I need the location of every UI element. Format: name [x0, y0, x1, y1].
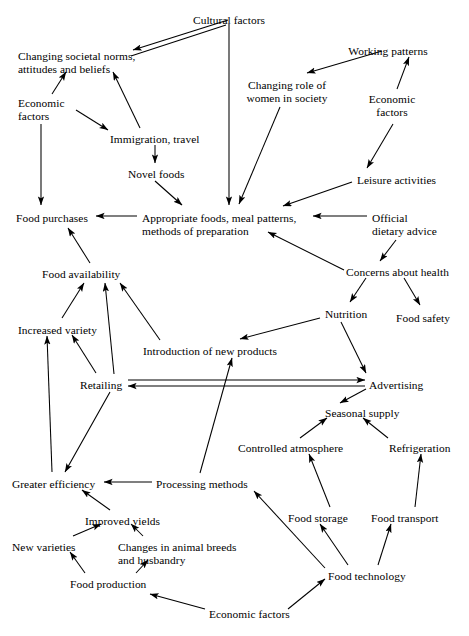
node-food_availability[interactable]: Food availability [42, 268, 120, 281]
node-greater_efficiency[interactable]: Greater efficiency [12, 478, 95, 491]
node-advertising[interactable]: Advertising [369, 379, 423, 392]
node-processing_methods[interactable]: Processing methods [156, 478, 248, 491]
node-cultural_factors[interactable]: Cultural factors [193, 14, 265, 27]
node-improved_yields[interactable]: Improved yields [85, 515, 160, 528]
node-economic_factors_right[interactable]: Economic factors [369, 93, 416, 118]
node-nutrition[interactable]: Nutrition [325, 308, 367, 321]
concept-map-diagram: Cultural factorsChanging societal norms,… [0, 0, 469, 636]
node-concerns_about_health[interactable]: Concerns about health [346, 266, 449, 279]
node-controlled_atmosphere[interactable]: Controlled atmosphere [238, 442, 343, 455]
node-leisure_activities[interactable]: Leisure activities [357, 174, 436, 187]
node-food_purchases[interactable]: Food purchases [16, 212, 88, 225]
node-new_varieties[interactable]: New varieties [12, 541, 76, 554]
node-food_safety[interactable]: Food safety [396, 312, 450, 325]
node-refrigeration[interactable]: Refrigeration [389, 442, 450, 455]
node-immigration_travel[interactable]: Immigration, travel [110, 133, 200, 146]
node-official_dietary_advice[interactable]: Official dietary advice [372, 212, 437, 237]
node-food_production[interactable]: Food production [70, 578, 146, 591]
node-changing_societal_norms[interactable]: Changing societal norms, attitudes and b… [18, 50, 135, 75]
node-increased_variety[interactable]: Increased variety [18, 324, 97, 337]
node-economic_factors_bottom[interactable]: Economic factors [209, 608, 290, 621]
node-appropriate_foods[interactable]: Appropriate foods, meal patterns, method… [142, 212, 296, 237]
node-seasonal_supply[interactable]: Seasonal supply [325, 407, 399, 420]
node-changing_role_women[interactable]: Changing role of women in society [246, 79, 327, 104]
node-layer: Cultural factorsChanging societal norms,… [0, 0, 469, 636]
node-food_technology[interactable]: Food technology [328, 570, 406, 583]
node-working_patterns[interactable]: Working patterns [348, 45, 427, 58]
node-novel_foods[interactable]: Novel foods [128, 168, 185, 181]
node-retailing[interactable]: Retailing [80, 379, 122, 392]
node-food_transport[interactable]: Food transport [371, 512, 438, 525]
node-economic_factors_left[interactable]: Economic factors [18, 97, 65, 122]
node-food_storage[interactable]: Food storage [288, 512, 348, 525]
node-changes_animal_breeds[interactable]: Changes in animal breeds and husbandry [118, 541, 237, 566]
node-intro_new_products[interactable]: Introduction of new products [143, 345, 277, 358]
